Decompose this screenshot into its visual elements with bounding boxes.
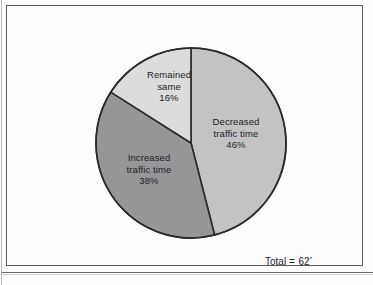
figure-page: Remained same 16% Decreased traffic time… xyxy=(0,0,373,285)
page-divider-rule-shadow xyxy=(2,274,373,275)
pie-label-decreased-traffic-time: Decreased traffic time 46% xyxy=(193,116,279,151)
pie-label-increased-traffic-time: Increased traffic time 38% xyxy=(106,152,192,187)
pie-label-increased-traffic-time-percent: 38% xyxy=(106,175,192,187)
page-edge-line xyxy=(1,0,2,285)
pie-label-remained-same-line1: Remained xyxy=(126,69,212,81)
pie-label-decreased-traffic-time-line1: Decreased xyxy=(193,116,279,128)
figure-frame: Remained same 16% Decreased traffic time… xyxy=(6,5,363,266)
page-divider-rule xyxy=(2,272,373,273)
pie-label-remained-same-percent: 16% xyxy=(126,92,212,104)
pie-label-increased-traffic-time-line1: Increased xyxy=(106,152,192,164)
total-value: 62 xyxy=(299,256,310,267)
total-equals-sign: = xyxy=(289,256,296,267)
pie-label-increased-traffic-time-line2: traffic time xyxy=(106,164,192,176)
total-label: Total xyxy=(265,256,286,267)
pie-label-decreased-traffic-time-line2: traffic time xyxy=(193,128,279,140)
total-annotation: Total = 62* xyxy=(265,256,312,268)
pie-label-remained-same: Remained same 16% xyxy=(126,69,212,104)
pie-label-remained-same-line2: same xyxy=(126,81,212,93)
pie-label-decreased-traffic-time-percent: 46% xyxy=(193,139,279,151)
total-footnote-marker: * xyxy=(310,256,312,262)
